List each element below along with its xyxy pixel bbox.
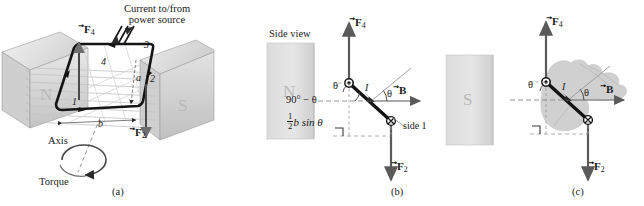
- caption-a: (a): [112, 186, 124, 197]
- theta-right-label-b: θ: [387, 88, 392, 100]
- f4-vector-symbol: ⃗F: [84, 23, 91, 35]
- panel-c-right-hand-rule: S ⃗F4 ⃗F2 ⃗B I θ θ (c): [430, 0, 644, 206]
- current-label-c: I: [562, 81, 565, 93]
- side-view-label: Side view: [269, 28, 311, 40]
- south-pole-label-a: S: [178, 96, 187, 116]
- moment-arm-expression: b sin θ: [293, 116, 322, 128]
- loop-side-4-label: 4: [101, 56, 106, 68]
- torque-label: Torque: [39, 176, 69, 188]
- angle-arc-theta-top: [343, 86, 346, 92]
- side-1-label-b: side 1: [403, 120, 427, 132]
- axis-label: Axis: [48, 135, 68, 147]
- label-f4-a: ⃗F4: [84, 23, 95, 37]
- caption-c: (c): [572, 186, 584, 197]
- label-f2-c: ⃗F2: [594, 160, 605, 174]
- right-angle-marker: [335, 128, 343, 136]
- label-f4-b: ⃗F4: [355, 16, 366, 30]
- current-source-note: Current to/from power source: [103, 3, 211, 25]
- caption-b: (b): [391, 186, 403, 197]
- dimension-a-label: a: [136, 72, 141, 84]
- f4-subscript: 4: [91, 28, 95, 37]
- current-note-line2: power source: [129, 14, 185, 25]
- angle-90-minus-theta-label: 90° − θ: [286, 94, 317, 106]
- loop-side-1-label: 1: [72, 96, 77, 108]
- theta-left-label-c: θ: [528, 79, 533, 91]
- dimension-b-label: b: [98, 118, 103, 130]
- south-pole-label-c: S: [463, 90, 472, 110]
- label-f2-b: ⃗F2: [397, 160, 408, 174]
- right-angle-marker-c: [532, 126, 540, 134]
- angle-arc-90-minus-theta: [355, 92, 360, 101]
- theta-right-label-c: θ: [584, 87, 589, 99]
- current-note-line1: Current to/from: [124, 3, 190, 14]
- theta-top-label-b: θ: [333, 80, 338, 92]
- loop-side-2-label: 2: [150, 73, 155, 85]
- label-b-field-c: ⃗B: [606, 83, 613, 96]
- panel-a-perspective-view: Current to/from power source ⃗F4 ⃗F2 1 2…: [0, 0, 215, 206]
- label-f4-c: ⃗F4: [552, 15, 563, 29]
- north-pole-label-a: N: [40, 85, 52, 105]
- f2-vector-symbol: ⃗F: [135, 126, 142, 138]
- physics-figure-torque-on-current-loop: Current to/from power source ⃗F4 ⃗F2 1 2…: [0, 0, 644, 206]
- label-f2-a: ⃗F2: [135, 126, 146, 140]
- loop-side-3-label: 3: [144, 39, 149, 51]
- panel-b-side-view: Side view N ⃗F4 ⃗F2 ⃗B I θ θ 90° − θ 1 2…: [215, 0, 430, 206]
- f2-subscript: 2: [142, 131, 146, 140]
- panel-b-graphic: [215, 0, 430, 206]
- moment-arm-label: 1 2 b sin θ: [287, 112, 323, 131]
- label-b-field-b: ⃗B: [399, 84, 406, 97]
- current-label-b: I: [365, 82, 368, 94]
